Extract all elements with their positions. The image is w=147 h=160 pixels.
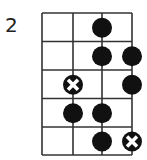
- finger-dot: [92, 103, 112, 123]
- root-note-marker: [63, 75, 83, 95]
- fretboard-diagram: [0, 0, 147, 160]
- finger-dot: [63, 103, 83, 123]
- root-note-marker: [122, 132, 142, 152]
- finger-dot: [92, 46, 112, 66]
- finger-dot: [92, 132, 112, 152]
- finger-dot: [122, 46, 142, 66]
- finger-dot: [122, 75, 142, 95]
- finger-dot: [92, 18, 112, 38]
